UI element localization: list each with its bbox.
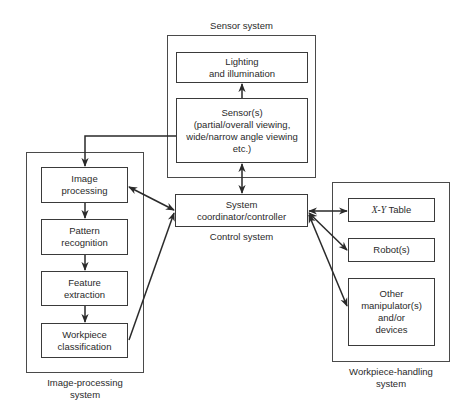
connector-lines (0, 0, 473, 407)
arrow-classification-to-coordinator (129, 213, 174, 340)
arrow-sensors-to-image-processing (85, 136, 176, 166)
arrow-coordinator-robots (309, 213, 347, 250)
arrow-image-processing-coordinator (129, 187, 174, 210)
arrow-coordinator-other (309, 215, 347, 306)
